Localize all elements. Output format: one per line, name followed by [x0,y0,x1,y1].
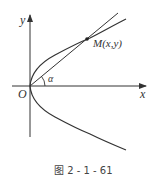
origin-label: O [18,87,27,101]
x-axis-label: x [139,87,146,101]
point-m [85,37,89,41]
y-axis-label: y [19,13,26,27]
parabola-diagram: y x O M(x,y) α 图 2 - 1 - 61 [0,0,153,184]
point-label: M(x,y) [92,37,122,50]
figure-caption: 图 2 - 1 - 61 [54,165,113,176]
parabola-lower-branch [30,86,126,150]
angle-label: α [48,73,54,84]
angle-arc [42,76,46,86]
parabola-upper-branch [30,19,126,86]
line-om [30,13,118,86]
